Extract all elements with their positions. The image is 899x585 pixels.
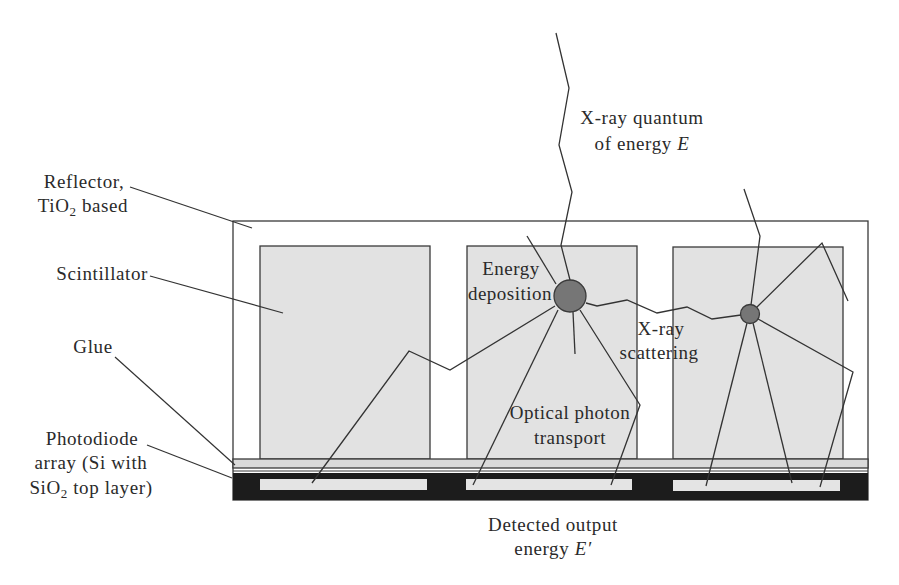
photodiode-label-line2: array (Si with: [35, 452, 148, 474]
glue-label: Glue: [73, 336, 112, 357]
reflector-material-suffix: based: [77, 195, 129, 216]
reflector-label-line1: Reflector,: [44, 171, 125, 192]
xray-scattering-label-line1: X-ray: [638, 318, 685, 339]
photodiode-label-line1: Photodiode: [46, 428, 139, 449]
scintillator-label: Scintillator: [56, 263, 148, 284]
photodiode-pixel-3: [673, 480, 840, 491]
photodiode-material-suffix: top layer): [68, 477, 153, 499]
energy-deposition-label-line1: Energy: [482, 258, 540, 279]
x-ray-detector-diagram: Reflector, TiO2 based Scintillator Glue …: [0, 0, 899, 585]
detected-output-label-line2: energy E′: [514, 538, 592, 559]
xray-scattering-label-line2: scattering: [620, 342, 699, 363]
photodiode-pixel-2: [466, 479, 632, 490]
detected-output-text: energy: [514, 538, 574, 559]
scintillator-1: [260, 246, 430, 459]
output-energy-variable: E′: [574, 538, 592, 559]
photodiode-leader-line: [147, 445, 232, 478]
photodiode-pixels: [260, 479, 840, 491]
subscript: 2: [70, 204, 77, 219]
xray-quantum-text: of energy: [595, 133, 678, 154]
reflector-label-line2: TiO2 based: [38, 195, 128, 219]
detected-output-label-line1: Detected output: [488, 514, 618, 535]
subscript: 2: [61, 486, 68, 501]
energy-variable: E: [676, 133, 689, 154]
photodiode-pixel-1: [260, 479, 427, 490]
energy-deposition-point-2: [741, 305, 760, 324]
photodiode-material: SiO: [29, 477, 60, 498]
scintillator-3: [673, 247, 843, 459]
xray-quantum-label-line1: X-ray quantum: [580, 107, 703, 128]
optical-photon-label-line1: Optical photon: [510, 402, 630, 423]
optical-photon-label-line2: transport: [534, 427, 606, 448]
energy-deposition-point-1: [554, 280, 586, 312]
photodiode-label-line3: SiO2 top layer): [29, 477, 152, 501]
reflector-material: TiO: [38, 195, 70, 216]
energy-deposition-label-line2: deposition: [468, 283, 552, 304]
xray-quantum-label-line2: of energy E: [595, 133, 690, 154]
reflector-leader-line: [130, 187, 252, 228]
